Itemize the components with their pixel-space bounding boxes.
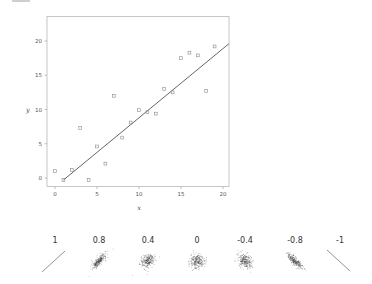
y-tick-label: 20 xyxy=(35,38,42,44)
data-point xyxy=(54,170,57,173)
correlation-label: 0.4 xyxy=(142,236,155,245)
correlation-label: 0 xyxy=(194,236,199,245)
x-axis: 05101520 xyxy=(53,187,227,198)
x-tick-label: 5 xyxy=(95,191,99,197)
y-tick-label: 5 xyxy=(39,141,43,147)
data-points xyxy=(54,45,216,181)
data-point xyxy=(79,127,82,130)
correlation-panel: 0.4 xyxy=(132,236,160,276)
data-point xyxy=(87,179,90,182)
data-point xyxy=(188,51,191,54)
y-axis: 05101520 xyxy=(35,38,47,181)
correlation-panel: -1 xyxy=(327,236,350,271)
y-tick-label: 10 xyxy=(35,107,42,113)
x-tick-label: 15 xyxy=(178,191,185,197)
y-axis-label: y xyxy=(25,106,30,114)
x-tick-label: 0 xyxy=(53,191,57,197)
correlation-label: 1 xyxy=(52,236,57,245)
correlation-examples-row: 10.80.40-0.4-0.8-1 xyxy=(42,236,350,277)
data-point xyxy=(96,145,99,148)
data-point xyxy=(121,136,124,139)
correlation-label: -1 xyxy=(336,236,344,245)
correlation-panel: 1 xyxy=(42,236,65,272)
correlation-label: -0.4 xyxy=(237,236,253,245)
data-point xyxy=(205,90,208,93)
correlation-panel: 0 xyxy=(188,236,208,271)
y-tick-label: 0 xyxy=(39,175,43,181)
x-tick-label: 20 xyxy=(220,191,227,197)
data-point xyxy=(70,168,73,171)
figure: 05101520 05101520 y x 10.80.40-0.4-0.8-1 xyxy=(0,0,372,284)
y-tick-label: 15 xyxy=(35,72,42,78)
plot-frame xyxy=(47,17,229,187)
data-point xyxy=(104,162,107,165)
data-point xyxy=(154,112,157,115)
correlation-panel: 0.8 xyxy=(89,236,114,277)
data-point xyxy=(196,54,199,57)
correlation-panel: -0.8 xyxy=(286,236,306,270)
correlation-label: 0.8 xyxy=(93,236,106,245)
data-point xyxy=(163,88,166,91)
data-point xyxy=(180,57,183,60)
x-tick-label: 10 xyxy=(136,191,143,197)
data-point xyxy=(138,109,141,112)
correlation-panel: -0.4 xyxy=(234,236,254,273)
data-point xyxy=(213,45,216,48)
data-point xyxy=(112,94,115,97)
correlation-label: -0.8 xyxy=(287,236,303,245)
x-axis-label: x xyxy=(137,204,141,212)
